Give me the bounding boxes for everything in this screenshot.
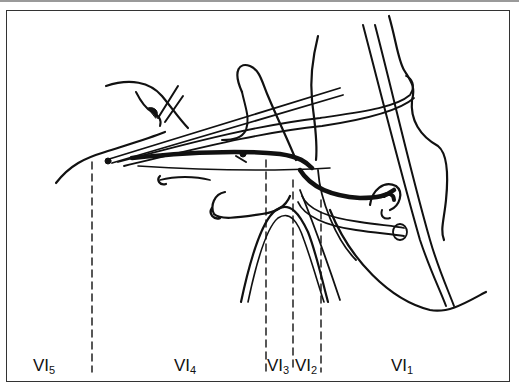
zone-label-vi3-sub: 3	[283, 364, 289, 376]
zone-label-vi4-sub: 4	[190, 364, 196, 376]
zone-label-vi3: VI3	[267, 357, 289, 376]
zone-label-vi1-sub: 1	[407, 364, 413, 376]
dark-band	[132, 152, 312, 168]
zone-label-vi2-sub: 2	[311, 364, 317, 376]
zone-label-vi4: VI4	[174, 357, 196, 376]
zone-label-vi2: VI2	[295, 357, 317, 376]
zone-label-vi5-base: VI	[33, 356, 49, 375]
zone-label-vi1-base: VI	[391, 356, 407, 375]
vertical-rods	[363, 25, 454, 306]
dark-curve	[300, 170, 394, 198]
tube-curve-a	[302, 196, 404, 228]
zone-label-vi2-base: VI	[295, 356, 311, 375]
hook-fill	[148, 108, 157, 118]
rod-tip	[105, 158, 111, 164]
inverted-arch	[241, 207, 328, 302]
zone-boundaries	[92, 160, 321, 372]
posterior-contour	[389, 16, 447, 240]
zone-label-vi4-base: VI	[174, 356, 190, 375]
lower-hook	[160, 177, 210, 180]
zone-label-vi1: VI1	[391, 357, 413, 376]
zone-label-vi5: VI5	[33, 357, 55, 376]
lower-arc	[330, 210, 486, 311]
zone-label-vi5-sub: 5	[49, 364, 55, 376]
cartilage-outline	[212, 192, 290, 218]
zone-label-vi3-base: VI	[267, 356, 283, 375]
column-left	[311, 36, 318, 160]
anatomy-drawing	[0, 0, 519, 388]
